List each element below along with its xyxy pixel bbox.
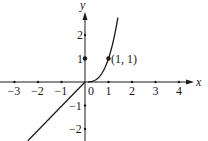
x-tick: [131, 81, 133, 83]
x-tick-label: 4: [176, 84, 182, 98]
x-tick-label: 1: [106, 84, 112, 98]
y-tick: [84, 104, 86, 106]
y-axis-arrow-icon: [83, 12, 88, 20]
x-tick: [154, 81, 156, 83]
x-tick-labels: −3−2−11234: [8, 84, 183, 98]
axes: [0, 12, 194, 141]
x-tick-label: 2: [129, 84, 135, 98]
function-graph: x y 0 (1, 1) −3−2−11234 21−1−2: [0, 0, 208, 141]
x-tick-label: 3: [153, 84, 159, 98]
x-tick-label: −1: [55, 84, 68, 98]
x-tick: [60, 81, 62, 83]
x-tick: [107, 81, 109, 83]
x-tick-label: −3: [8, 84, 21, 98]
x-tick-label: −2: [31, 84, 44, 98]
x-tick: [178, 81, 180, 83]
y-tick: [84, 128, 86, 130]
x-tick: [37, 81, 39, 83]
y-axis-label: y: [79, 0, 86, 12]
origin-label: 0: [88, 84, 94, 98]
y-tick: [84, 34, 86, 36]
y-tick-label: −1: [69, 99, 82, 113]
y-tick-label: 2: [77, 28, 83, 42]
point-label: (1, 1): [111, 52, 137, 66]
x-axis-arrow-icon: [186, 80, 194, 85]
y-tick-label: −2: [69, 122, 82, 136]
x-axis-label: x: [195, 75, 202, 89]
x-tick: [13, 81, 15, 83]
data-point: [83, 56, 87, 60]
points: [83, 56, 111, 60]
cubic-curve: [88, 18, 118, 82]
y-tick-label: 1: [77, 52, 83, 66]
